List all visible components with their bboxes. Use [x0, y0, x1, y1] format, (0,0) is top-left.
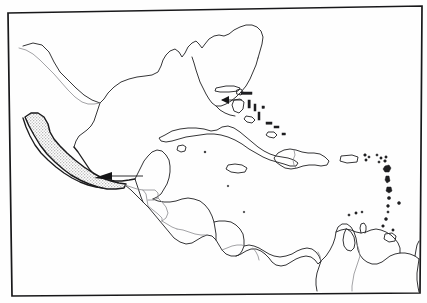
swan-island-dot: [227, 185, 229, 187]
bahamas-long-island: [258, 112, 260, 120]
aruba-dot: [348, 214, 350, 216]
turks-caicos: [282, 133, 285, 135]
bahamas-mayaguana: [274, 126, 279, 128]
map-canvas: [0, 0, 427, 303]
virgin-islands-dot-3: [365, 159, 367, 161]
bahamas-cat-island: [254, 104, 256, 111]
grenada-dot: [385, 218, 388, 221]
bahamas-san-salvador: [262, 106, 264, 108]
st-lucia-dot: [387, 196, 390, 199]
barbados-dot: [398, 202, 401, 205]
virgin-islands-dot-2: [368, 156, 370, 158]
bahamas-abaco: [241, 92, 252, 94]
bonaire-dot: [361, 211, 363, 213]
margarita-dot: [382, 225, 385, 228]
barbuda-dot: [385, 156, 387, 158]
map-figure: [0, 0, 427, 303]
bahamas-eleuthera: [248, 100, 250, 108]
st-vincent-dot: [387, 205, 390, 208]
antigua-dot: [384, 160, 387, 163]
san-andres-dot: [243, 211, 245, 213]
tobago-dot: [392, 229, 394, 231]
anguilla-dot: [376, 154, 378, 156]
st-martin-dot: [380, 157, 382, 159]
grenadines-dot: [387, 211, 389, 213]
virgin-islands-dot-1: [364, 154, 367, 157]
curacao-dot: [355, 212, 357, 214]
st-kitts-dot: [378, 161, 380, 163]
cayman-dot: [204, 151, 206, 153]
bahamas-crooked-island: [266, 122, 272, 124]
